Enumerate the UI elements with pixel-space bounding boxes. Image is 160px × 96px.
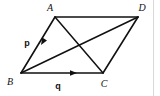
vertex-label-D: D [137,2,146,13]
vector-label-p: p [24,38,30,48]
parallelogram-diagram: A D B C p q [0,0,160,96]
vertex-label-A: A [46,2,54,13]
vertex-label-C: C [101,78,108,89]
vector-label-q: q [55,81,61,91]
vector-q-arrowhead [70,70,77,76]
geometry-figure: A D B C p q [0,0,160,96]
vertex-label-B: B [7,76,13,87]
